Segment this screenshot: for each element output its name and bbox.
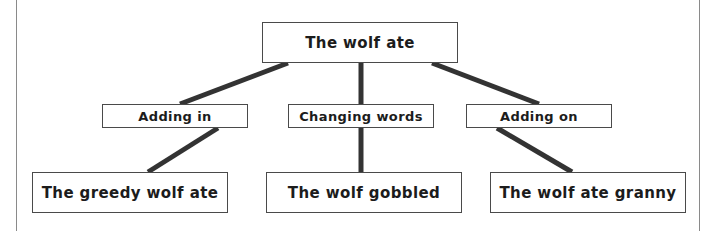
node-leaf-wolf-gobbled[interactable]: The wolf gobbled (266, 172, 462, 213)
node-branch-adding-on[interactable]: Adding on (466, 104, 612, 128)
connector-root-to-adding-in (180, 63, 288, 104)
node-leaf-greedy-wolf[interactable]: The greedy wolf ate (32, 172, 228, 213)
connector-adding-on-to-wolf-granny (497, 128, 572, 172)
connector-adding-in-to-greedy-wolf (148, 128, 218, 172)
node-branch-changing-words[interactable]: Changing words (288, 104, 434, 128)
node-branch-adding-in[interactable]: Adding in (102, 104, 248, 128)
node-leaf-wolf-granny[interactable]: The wolf ate granny (490, 172, 686, 213)
node-root[interactable]: The wolf ate (262, 22, 458, 63)
connector-root-to-adding-on (432, 63, 539, 104)
worksheet-page: The wolf ate Adding in Changing words Ad… (0, 0, 714, 231)
